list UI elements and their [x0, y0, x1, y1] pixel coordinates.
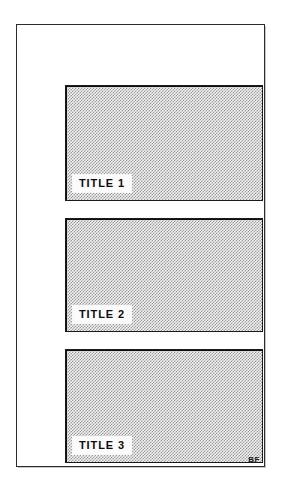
panel-2[interactable]: TITLE 2 [65, 218, 263, 332]
panel-2-title: TITLE 2 [73, 306, 131, 323]
panel-1-title: TITLE 1 [73, 175, 131, 192]
panel-3-title: TITLE 3 [73, 437, 131, 454]
figure-root: TITLE 1 TITLE 2 TITLE 3 BF [0, 0, 281, 491]
outer-border-frame: TITLE 1 TITLE 2 TITLE 3 BF [16, 24, 265, 467]
panel-3[interactable]: TITLE 3 [65, 349, 263, 463]
corner-mark-label: BF [248, 455, 260, 464]
panel-stack: TITLE 1 TITLE 2 TITLE 3 [65, 85, 263, 463]
panel-1[interactable]: TITLE 1 [65, 85, 263, 201]
